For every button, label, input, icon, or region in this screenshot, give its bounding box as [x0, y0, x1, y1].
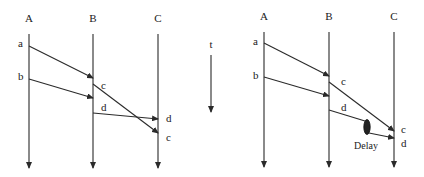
- receive-d-label: d: [401, 137, 407, 149]
- message-c-label: c: [101, 79, 106, 91]
- message-ordering-diagram: A B C a b c d d c t A B C a b: [0, 0, 424, 177]
- message-b-label: b: [18, 70, 24, 82]
- process-label-b: B: [325, 10, 332, 22]
- process-label-c: C: [390, 10, 397, 22]
- receive-c-label: c: [166, 131, 171, 143]
- delay-label: Delay: [354, 140, 378, 151]
- left-diagram: A B C a b c d d c: [18, 12, 172, 168]
- message-c-label: c: [341, 75, 346, 87]
- process-label-c: C: [154, 12, 161, 24]
- message-a-arrow: [29, 46, 93, 78]
- message-d-arrow-segment-1: [329, 110, 365, 121]
- receive-c-label: c: [401, 123, 406, 135]
- process-label-a: A: [260, 10, 268, 22]
- message-b-arrow: [29, 79, 93, 98]
- process-label-a: A: [25, 12, 33, 24]
- message-d-label: d: [101, 101, 107, 113]
- message-b-label: b: [253, 69, 259, 81]
- message-d-arrow-segment-2: [369, 133, 394, 138]
- message-a-label: a: [18, 37, 23, 49]
- message-a-label: a: [253, 35, 258, 47]
- right-diagram: A B C a b c d Delay c d: [253, 10, 407, 167]
- receive-d-label: d: [166, 112, 172, 124]
- message-d-arrow: [93, 113, 158, 119]
- message-b-arrow: [264, 77, 329, 96]
- delay-blob: [364, 120, 370, 135]
- process-label-b: B: [89, 12, 96, 24]
- time-axis-label: t: [209, 38, 212, 50]
- message-c-arrow: [329, 82, 394, 131]
- time-axis: t: [209, 38, 212, 112]
- message-d-label: d: [341, 101, 347, 113]
- message-a-arrow: [264, 43, 329, 76]
